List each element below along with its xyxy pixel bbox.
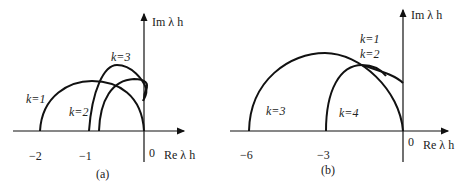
panel-a: −2 −1 0 Re λ h Im λ h k=1 k=2 k=3 (a) (13, 14, 195, 181)
curve-k4 (326, 65, 386, 131)
panel-b: −6 −3 0 Re λ h Im λ h k=1 k=2 k=3 k=4 (b… (230, 8, 454, 177)
curve-label-k4: k=4 (339, 106, 358, 120)
tick-label: 0 (149, 146, 155, 160)
tick-label: −2 (29, 149, 42, 163)
tick-label: −1 (79, 149, 92, 163)
y-axis-label: Im λ h (411, 8, 442, 22)
curve-label-k1: k=1 (360, 32, 379, 46)
curve-label-k1: k=1 (26, 92, 45, 106)
curve-k3 (89, 65, 147, 131)
curve-label-k3: k=3 (266, 104, 285, 118)
curve-label-k2: k=2 (69, 105, 88, 119)
curve-k2 (99, 79, 147, 131)
tick-label: −6 (240, 148, 253, 162)
tick-label: 0 (408, 135, 414, 149)
panel-caption: (b) (321, 163, 335, 177)
y-axis-label: Im λ h (152, 15, 183, 29)
panel-caption: (a) (96, 167, 109, 181)
x-axis-label: Re λ h (164, 148, 195, 162)
tick-label: −3 (317, 148, 330, 162)
x-axis-label: Re λ h (423, 138, 454, 152)
curve-label-k2: k=2 (360, 47, 379, 61)
stability-regions-figure: −2 −1 0 Re λ h Im λ h k=1 k=2 k=3 (a) −6… (0, 0, 463, 188)
curve-label-k3: k=3 (111, 50, 130, 64)
